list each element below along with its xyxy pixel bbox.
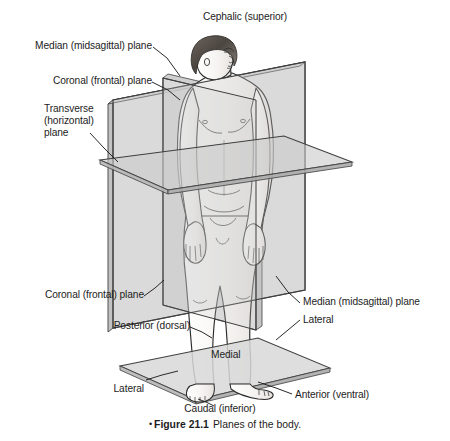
leader-lateral-right xyxy=(276,320,300,340)
label-medial: Medial xyxy=(211,349,271,361)
label-median-plane-top: Median (midsagittal) plane xyxy=(4,40,152,52)
anatomical-planes-figure: Cephalic (superior) Median (midsagittal)… xyxy=(0,0,450,441)
leader-median-top xyxy=(153,47,180,76)
median-plane-front-overlay xyxy=(163,78,256,330)
caption-text: Planes of the body. xyxy=(213,419,301,430)
label-anterior: Anterior (ventral) xyxy=(295,389,425,401)
label-median-plane-bottom: Median (midsagittal) plane xyxy=(303,296,450,308)
caption-figure-number: Figure 21.1 xyxy=(154,419,209,430)
label-posterior: Posterior (dorsal) xyxy=(62,320,190,332)
figure-caption: •Figure 21.1Planes of the body. xyxy=(0,419,450,430)
label-cephalic: Cephalic (superior) xyxy=(160,11,330,23)
planes-illustration xyxy=(0,0,450,441)
label-lateral-left: Lateral xyxy=(84,383,144,395)
label-transverse-line1: Transverse xyxy=(44,103,154,115)
caption-bullet-icon: • xyxy=(149,419,152,429)
label-lateral-right: Lateral xyxy=(303,314,373,326)
label-coronal-plane-top: Coronal (frontal) plane xyxy=(4,75,152,87)
label-transverse-line2: (horizontal) xyxy=(44,115,154,127)
label-transverse-line3: plane xyxy=(44,127,154,139)
label-caudal: Caudal (inferior) xyxy=(155,403,285,415)
label-coronal-plane-bottom: Coronal (frontal) plane xyxy=(0,289,144,301)
